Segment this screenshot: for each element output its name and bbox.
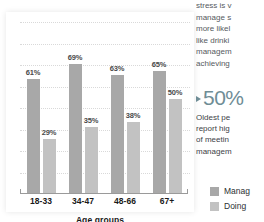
bar-series-1[interactable]	[153, 71, 166, 193]
bar-wrap: 63%	[111, 22, 124, 193]
bar-group: 63% 38%	[104, 22, 146, 193]
x-axis-line	[20, 193, 188, 194]
callout-line: report hig	[196, 123, 264, 134]
bar-series-2[interactable]	[43, 139, 56, 193]
x-axis-categories: 18-33 34-47 48-66 67+	[20, 196, 188, 206]
bar-wrap: 29%	[43, 22, 56, 193]
bar-wrap: 38%	[127, 22, 140, 193]
axis-tick-left	[20, 189, 21, 194]
bar-wrap: 50%	[169, 22, 182, 193]
bar-series-2[interactable]	[169, 99, 182, 193]
legend-label: Doing	[224, 201, 246, 211]
legend-swatch-icon	[210, 202, 219, 211]
side-text-panel: stress is v manage s more likel like dri…	[196, 0, 264, 222]
bar-value-label: 65%	[152, 60, 167, 69]
bar-wrap: 69%	[69, 22, 82, 193]
x-axis-tick-label: 48-66	[104, 196, 146, 206]
arrow-right-icon	[196, 96, 201, 102]
bar-series-1[interactable]	[69, 64, 82, 193]
legend-label: Manag	[224, 186, 250, 196]
bar-value-label: 61%	[26, 68, 41, 77]
body-line: manage s	[196, 12, 264, 24]
callout-line: Oldest pe	[196, 112, 264, 123]
x-axis-tick-label: 18-33	[20, 196, 62, 206]
x-axis-tick-label: 34-47	[62, 196, 104, 206]
x-axis-title: Age groups	[6, 215, 194, 222]
bar-series-1[interactable]	[111, 75, 124, 193]
legend-swatch-icon	[210, 187, 219, 196]
x-axis-tick-label: 67+	[146, 196, 188, 206]
bar-group: 65% 50%	[146, 22, 188, 193]
body-line: like drinki	[196, 35, 264, 47]
body-copy: stress is v manage s more likel like dri…	[196, 0, 264, 70]
legend-item-series-2[interactable]: Doing	[210, 201, 264, 211]
callout-description: Oldest pe report hig of meetin managem	[196, 112, 264, 157]
callout-line: of meetin	[196, 134, 264, 145]
stat-callout: 50% Oldest pe report hig of meetin manag…	[196, 86, 264, 157]
callout-stat-value: 50%	[203, 86, 264, 109]
bar-group: 61% 29%	[20, 22, 62, 193]
bar-value-label: 63%	[110, 64, 125, 73]
body-line: more likel	[196, 23, 264, 35]
chart-card: 61% 29% 69% 35%	[6, 12, 194, 212]
plot-area: 61% 29% 69% 35%	[20, 22, 190, 194]
body-line: managem	[196, 46, 264, 58]
axis-tick-right	[187, 189, 188, 194]
chart-legend: Manag Doing	[210, 186, 264, 216]
bar-series-1[interactable]	[27, 79, 40, 193]
bar-series-2[interactable]	[85, 127, 98, 193]
bar-value-label: 38%	[126, 111, 141, 120]
body-line: achieving	[196, 58, 264, 70]
bar-wrap: 65%	[153, 22, 166, 193]
bar-group: 69% 35%	[62, 22, 104, 193]
bar-wrap: 61%	[27, 22, 40, 193]
callout-line: managem	[196, 146, 264, 157]
legend-item-series-1[interactable]: Manag	[210, 186, 264, 196]
bar-value-label: 35%	[84, 116, 99, 125]
body-line: stress is v	[196, 0, 264, 12]
bar-value-label: 50%	[168, 88, 183, 97]
bar-value-label: 29%	[42, 128, 57, 137]
bar-wrap: 35%	[85, 22, 98, 193]
bar-series-2[interactable]	[127, 122, 140, 193]
bar-groups: 61% 29% 69% 35%	[20, 22, 188, 193]
bar-value-label: 69%	[68, 53, 83, 62]
